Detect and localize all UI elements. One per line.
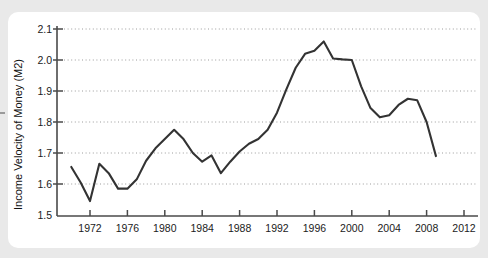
x-tick-label: 1976: [116, 222, 140, 234]
x-tick-label: 1992: [265, 222, 289, 234]
x-tick-label: 1984: [191, 222, 215, 234]
x-tick-label: 1988: [228, 222, 252, 234]
gridlines-group: [64, 29, 478, 184]
y-tick-marks-group: [53, 29, 63, 184]
data-series-line: [71, 41, 436, 201]
y-tick-label: 1.5: [37, 209, 52, 221]
y-axis-title: Income Velocity of Money (M2): [12, 59, 24, 210]
x-tick-label: 1972: [78, 222, 102, 234]
y-tick-label: 1.9: [37, 85, 52, 97]
x-tick-label: 2008: [415, 222, 439, 234]
y-tick-label: 1.7: [37, 147, 52, 159]
x-tick-labels-group: 1972197619801984198819921996200020042008…: [78, 222, 476, 234]
x-tick-label: 1996: [303, 222, 327, 234]
y-tick-label: 2.1: [37, 23, 52, 35]
income-velocity-line-chart: 1.51.61.71.81.92.02.1 197219761980198419…: [0, 0, 488, 258]
x-tick-label: 2012: [452, 222, 476, 234]
y-tick-label: 1.8: [37, 116, 52, 128]
x-tick-label: 2000: [340, 222, 364, 234]
x-tick-marks-group: [90, 210, 464, 216]
y-tick-label: 2.0: [37, 54, 52, 66]
x-tick-label: 1980: [153, 222, 177, 234]
y-tick-label: 1.6: [37, 178, 52, 190]
x-tick-label: 2004: [378, 222, 402, 234]
y-tick-labels-group: 1.51.61.71.81.92.02.1: [37, 23, 52, 221]
